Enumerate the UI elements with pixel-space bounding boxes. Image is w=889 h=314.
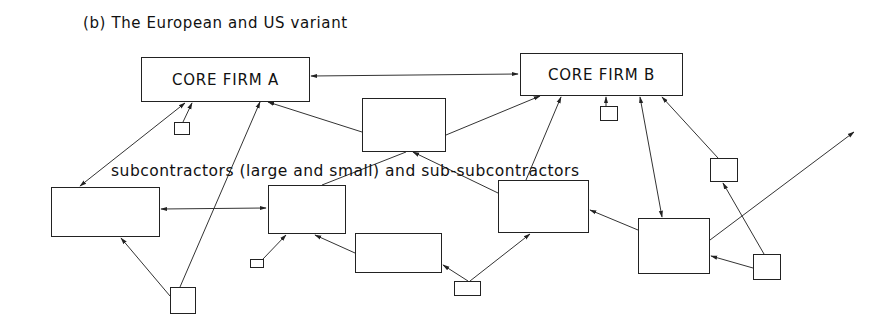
edge-small-lower-center-center-right <box>470 234 530 281</box>
subcontractor-box <box>174 122 190 135</box>
edge-tiny-lower-left-center-left <box>263 235 286 259</box>
edge-small-lower-center-below-center <box>443 265 468 281</box>
edge-mid-upper-core-b <box>446 96 540 135</box>
edge-left-big-center-left <box>161 208 266 209</box>
edge-right-big-core-b <box>640 97 662 217</box>
core-firm-a-label: CORE FIRM A <box>172 71 279 89</box>
edge-right-bottom-small-right-small <box>723 183 764 254</box>
edge-right-big-center-right <box>590 210 638 230</box>
subcontractor-box <box>355 233 442 273</box>
subcontractor-box <box>498 180 589 233</box>
edge-below-center-center-left <box>315 235 355 253</box>
edge-bottom-small-core-a <box>180 102 260 287</box>
core-firm-a-box: CORE FIRM A <box>141 57 310 102</box>
subcontractor-box <box>710 158 738 182</box>
sub-subcontractor-box <box>454 281 481 296</box>
edge-mid-upper-core-a <box>268 102 362 132</box>
core-firm-b-box: CORE FIRM B <box>520 53 683 96</box>
edge-right-big-outside <box>710 132 854 240</box>
edge-small-under-a-core-a <box>183 103 192 122</box>
edge-right-bottom-small-right-big <box>711 256 753 268</box>
subcontractors-label: subcontractors (large and small) and sub… <box>111 162 580 180</box>
edge-core-a-core-b <box>311 74 518 76</box>
edge-right-small-core-b <box>662 97 718 158</box>
subcontractor-box <box>362 98 446 152</box>
subcontractor-box <box>51 187 160 237</box>
subcontractor-box <box>638 218 710 274</box>
sub-subcontractor-box <box>170 287 196 314</box>
core-firm-b-label: CORE FIRM B <box>548 66 655 84</box>
sub-subcontractor-box <box>753 254 781 280</box>
subcontractor-box <box>268 185 346 234</box>
subcontractor-box <box>600 106 618 121</box>
sub-subcontractor-box <box>250 259 264 268</box>
edge-bottom-small-left-big <box>121 238 170 296</box>
